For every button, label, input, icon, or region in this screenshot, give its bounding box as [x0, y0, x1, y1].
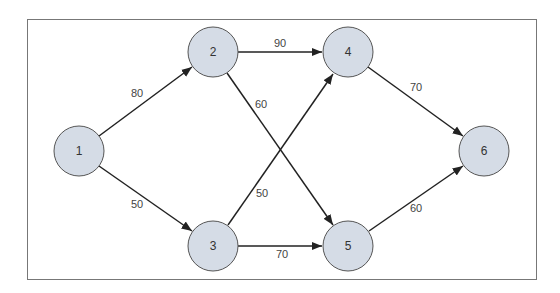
edge-weight-1-2: 80: [131, 87, 143, 99]
node-4: 4: [323, 27, 373, 77]
node-5: 5: [323, 221, 373, 271]
node-3: 3: [188, 221, 238, 271]
edge-weight-3-4: 50: [256, 187, 268, 199]
edge-weight-3-5: 70: [276, 248, 288, 260]
node-2: 2: [188, 27, 238, 77]
network-diagram: 80 50 90 60 50 70 70 60 1 2 3 4 5: [0, 0, 560, 293]
node-1: 1: [54, 126, 104, 176]
edge-weight-2-5: 60: [255, 98, 267, 110]
node-label: 4: [345, 45, 352, 59]
node-6: 6: [459, 126, 509, 176]
node-label: 3: [210, 239, 217, 253]
edge-weight-4-6: 70: [410, 81, 422, 93]
node-label: 6: [481, 144, 488, 158]
edge-weight-2-4: 90: [274, 37, 286, 49]
node-label: 5: [345, 239, 352, 253]
edge-weight-5-6: 60: [410, 202, 422, 214]
node-label: 1: [76, 144, 83, 158]
edge-weight-1-3: 50: [131, 198, 143, 210]
node-label: 2: [210, 45, 217, 59]
